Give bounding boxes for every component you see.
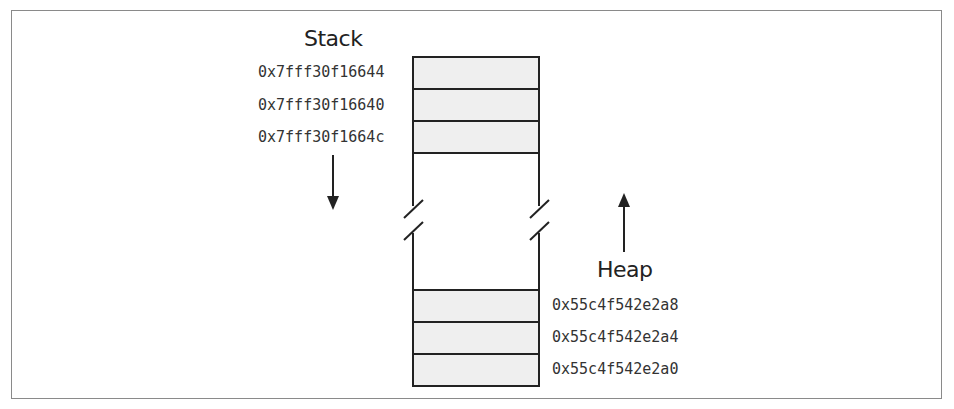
memory-diagram (0, 0, 954, 409)
stack-cells (413, 57, 539, 153)
arrow-down-icon (327, 155, 339, 210)
heap-cells (413, 290, 539, 386)
stack-address-1: 0x7fff30f16640 (258, 96, 384, 114)
heap-address-1: 0x55c4f542e2a4 (552, 328, 678, 346)
heap-address-0: 0x55c4f542e2a8 (552, 296, 678, 314)
stack-address-2: 0x7fff30f1664c (258, 128, 384, 146)
arrow-up-icon (618, 193, 630, 252)
heap-label: Heap (597, 257, 653, 282)
heap-address-2: 0x55c4f542e2a0 (552, 360, 678, 378)
stack-address-0: 0x7fff30f16644 (258, 63, 384, 81)
memory-walls (404, 153, 549, 290)
stack-label: Stack (304, 26, 362, 51)
